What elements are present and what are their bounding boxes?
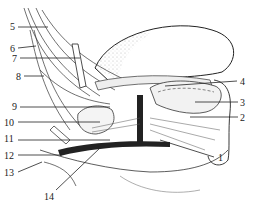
anatomical-drawing — [0, 0, 260, 212]
label-2: 2 — [240, 113, 245, 123]
label-11: 11 — [4, 134, 14, 144]
label-8: 8 — [16, 72, 21, 82]
leader-line-13 — [18, 162, 42, 172]
label-5: 5 — [10, 22, 15, 32]
label-12: 12 — [4, 151, 14, 161]
gland — [150, 81, 221, 113]
leader-line-1 — [160, 140, 214, 157]
label-3: 3 — [240, 98, 245, 108]
label-13: 13 — [4, 168, 14, 178]
label-4: 4 — [240, 77, 245, 87]
label-10: 10 — [4, 118, 14, 128]
label-14: 14 — [44, 192, 54, 202]
label-9: 9 — [12, 102, 17, 112]
label-7: 7 — [12, 54, 17, 64]
leader-line-6 — [18, 46, 36, 48]
label-1: 1 — [218, 153, 223, 163]
